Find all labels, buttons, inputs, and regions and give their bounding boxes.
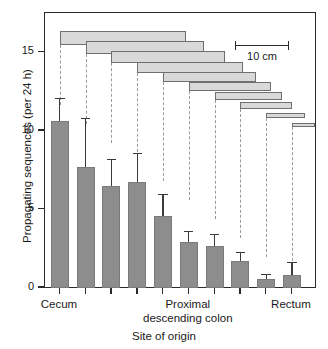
error-bar-cap bbox=[55, 98, 64, 99]
bar bbox=[180, 242, 198, 288]
scale-bar-tick-left bbox=[235, 41, 236, 50]
x-axis-label: Rectum bbox=[226, 298, 328, 311]
x-axis-tick bbox=[239, 288, 240, 294]
overlay-horizontal-bar bbox=[266, 113, 305, 118]
overlay-drop-line bbox=[60, 45, 61, 105]
overlay-drop-line bbox=[240, 109, 241, 238]
bar bbox=[102, 186, 120, 288]
x-axis-tick bbox=[188, 288, 189, 294]
error-bar-cap bbox=[261, 274, 270, 275]
overlay-drop-line bbox=[266, 118, 267, 257]
x-axis-tick bbox=[110, 288, 111, 294]
error-bar-stem bbox=[291, 262, 292, 275]
plot-area: 10 cm bbox=[44, 12, 316, 288]
error-bar-stem bbox=[111, 159, 112, 186]
error-bar-cap bbox=[158, 194, 167, 195]
x-axis-tick bbox=[59, 288, 60, 294]
overlay-drop-line bbox=[163, 82, 164, 181]
scale-bar-tick-right bbox=[288, 41, 289, 50]
x-axis-tick bbox=[136, 288, 137, 294]
error-bar-cap bbox=[287, 262, 296, 263]
overlay-drop-line bbox=[137, 73, 138, 162]
overlay-horizontal-bar bbox=[240, 102, 292, 109]
bar bbox=[231, 261, 249, 288]
y-axis-tick-label: 0 bbox=[0, 281, 34, 292]
x-axis-tick bbox=[85, 288, 86, 294]
overlay-horizontal-bar bbox=[292, 123, 315, 127]
scale-bar-line bbox=[235, 45, 289, 46]
error-bar-cap bbox=[107, 159, 116, 160]
y-axis-title: Propagating sequences (per 24 h) bbox=[21, 41, 33, 271]
overlay-drop-line bbox=[111, 63, 112, 143]
error-bar-stem bbox=[85, 118, 86, 168]
overlay-drop-line bbox=[215, 100, 216, 219]
error-bar-cap bbox=[236, 252, 245, 253]
bar bbox=[51, 121, 69, 288]
error-bar-stem bbox=[59, 98, 60, 122]
error-bar-stem bbox=[188, 231, 189, 242]
error-bar-cap bbox=[184, 231, 193, 232]
y-axis-tick-label: 5 bbox=[0, 202, 34, 213]
bar bbox=[257, 279, 275, 288]
x-axis-tick bbox=[162, 288, 163, 294]
error-bar-stem bbox=[214, 234, 215, 246]
x-axis-title: Site of origin bbox=[0, 330, 328, 342]
scale-bar: 10 cm bbox=[235, 37, 305, 63]
bar bbox=[206, 246, 224, 288]
bar bbox=[283, 275, 301, 288]
x-axis-tick bbox=[265, 288, 266, 294]
error-bar-stem bbox=[240, 252, 241, 261]
error-bar-cap bbox=[81, 118, 90, 119]
bar bbox=[77, 167, 95, 288]
x-axis-label: Cecum bbox=[0, 298, 124, 311]
bar bbox=[128, 182, 146, 288]
x-axis-tick bbox=[291, 288, 292, 294]
figure-propagating-sequences: Propagating sequences (per 24 h) 051015 … bbox=[0, 0, 328, 349]
overlay-horizontal-bar bbox=[215, 92, 282, 100]
scale-bar-label: 10 cm bbox=[227, 50, 297, 62]
overlay-drop-line bbox=[86, 54, 87, 124]
overlay-drop-line bbox=[292, 127, 293, 276]
error-bar-cap bbox=[133, 153, 142, 154]
overlay-drop-line bbox=[189, 91, 190, 200]
error-bar-cap bbox=[210, 234, 219, 235]
overlay-horizontal-bar bbox=[163, 72, 256, 82]
error-bar-stem bbox=[137, 153, 138, 182]
bar bbox=[154, 216, 172, 288]
error-bar-stem bbox=[162, 194, 163, 216]
overlay-horizontal-bar bbox=[189, 82, 272, 91]
y-axis-tick-label: 10 bbox=[0, 124, 34, 135]
x-axis-label: descending colon bbox=[123, 312, 253, 325]
x-axis-tick bbox=[214, 288, 215, 294]
y-axis-tick-label: 15 bbox=[0, 45, 34, 56]
